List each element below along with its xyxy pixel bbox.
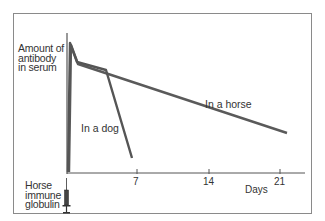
x-axis-label: Days xyxy=(245,184,268,195)
series-label-horse: In a horse xyxy=(205,98,252,110)
syringe-icon xyxy=(63,178,71,214)
series-dog-line xyxy=(68,43,132,172)
x-tick-label-14: 14 xyxy=(203,176,214,187)
series-horse-line xyxy=(69,45,287,172)
x-tick-label-21: 21 xyxy=(274,176,285,187)
chart-plot xyxy=(0,0,325,221)
series-label-dog: In a dog xyxy=(81,122,119,134)
x-tick-label-7: 7 xyxy=(133,176,139,187)
